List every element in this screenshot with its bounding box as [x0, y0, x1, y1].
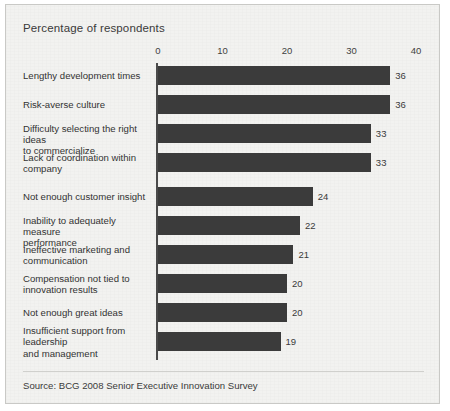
bar-value-label: 36 [395, 70, 406, 81]
bar[interactable] [158, 332, 281, 351]
bar-value-label: 22 [305, 220, 316, 231]
bar[interactable] [158, 303, 287, 322]
bar-category-label-line: Ineffective marketing and [23, 244, 151, 255]
plot-area: 010203040 Lengthy development times36Ris… [6, 5, 439, 403]
bar-value-label: 20 [292, 307, 303, 318]
bar-category-label-line: company [23, 163, 151, 174]
bar-category-label-line: innovation results [23, 284, 151, 295]
bar[interactable] [158, 245, 293, 264]
bar-category-label: Compensation not tied toinnovation resul… [23, 273, 151, 296]
bar-category-label-line: Not enough customer insight [23, 191, 151, 202]
bar[interactable] [158, 124, 371, 143]
bar-value-label: 21 [298, 249, 309, 260]
bar-category-label-line: Risk-averse culture [23, 99, 151, 110]
footer-divider [23, 371, 424, 372]
bar-category-label: Not enough customer insight [23, 191, 151, 202]
bar-value-label: 19 [286, 336, 297, 347]
bar-category-label-line: Lengthy development times [23, 70, 151, 81]
bar-category-label-line: communication [23, 255, 151, 266]
bar-category-label-line: Insufficient support from [23, 325, 151, 336]
bar-value-label: 33 [376, 128, 387, 139]
bar-category-label-line: Lack of coordination within [23, 152, 151, 163]
bar[interactable] [158, 153, 371, 172]
bar-value-label: 20 [292, 278, 303, 289]
bar[interactable] [158, 216, 300, 235]
bar-category-label: Insufficient support fromleadershipand m… [23, 325, 151, 359]
bar-category-label-line: leadership [23, 336, 151, 347]
bar-category-label-line: Difficulty selecting the right ideas [23, 123, 151, 146]
bar-category-label-line: Not enough great ideas [23, 307, 151, 318]
bar[interactable] [158, 187, 313, 206]
bar-value-label: 33 [376, 157, 387, 168]
bar[interactable] [158, 95, 390, 114]
bar-category-label-line: Inability to adequately measure [23, 215, 151, 238]
bar-category-label: Risk-averse culture [23, 99, 151, 110]
bar-category-label: Ineffective marketing andcommunication [23, 244, 151, 267]
source-note: Source: BCG 2008 Senior Executive Innova… [23, 380, 258, 391]
bar-category-label: Lengthy development times [23, 70, 151, 81]
chart-figure-frame: Percentage of respondents 010203040 Leng… [5, 4, 440, 404]
bar-category-label: Lack of coordination withincompany [23, 152, 151, 175]
bar-value-label: 36 [395, 99, 406, 110]
bar[interactable] [158, 66, 390, 85]
bar[interactable] [158, 274, 287, 293]
bar-category-label: Not enough great ideas [23, 307, 151, 318]
bars-layer: Lengthy development times36Risk-averse c… [6, 5, 440, 404]
bar-value-label: 24 [318, 191, 329, 202]
bar-category-label-line: Compensation not tied to [23, 273, 151, 284]
bar-category-label-line: and management [23, 348, 151, 359]
